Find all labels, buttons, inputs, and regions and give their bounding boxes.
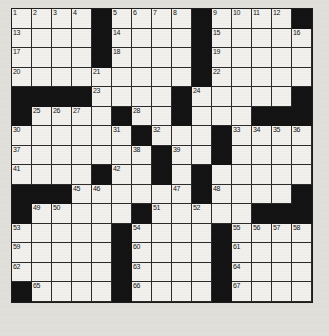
crossword-cell[interactable]: 37 (12, 146, 32, 166)
crossword-cell[interactable]: 61 (232, 243, 252, 263)
crossword-cell[interactable]: 12 (272, 9, 292, 29)
crossword-cell[interactable] (252, 282, 272, 302)
crossword-cell[interactable] (72, 29, 92, 49)
crossword-cell[interactable] (72, 48, 92, 68)
crossword-cell[interactable] (72, 146, 92, 166)
crossword-cell[interactable] (32, 224, 52, 244)
crossword-cell[interactable] (232, 87, 252, 107)
crossword-cell[interactable]: 26 (52, 107, 72, 127)
crossword-cell[interactable] (72, 263, 92, 283)
crossword-cell[interactable]: 22 (212, 68, 232, 88)
crossword-cell[interactable] (272, 282, 292, 302)
crossword-cell[interactable]: 27 (72, 107, 92, 127)
crossword-cell[interactable] (272, 146, 292, 166)
crossword-cell[interactable] (252, 87, 272, 107)
crossword-cell[interactable] (172, 224, 192, 244)
crossword-cell[interactable]: 48 (212, 185, 232, 205)
crossword-cell[interactable] (92, 263, 112, 283)
crossword-cell[interactable]: 58 (292, 224, 312, 244)
crossword-cell[interactable] (92, 107, 112, 127)
crossword-cell[interactable] (132, 48, 152, 68)
crossword-cell[interactable]: 24 (192, 87, 212, 107)
crossword-cell[interactable] (232, 29, 252, 49)
crossword-cell[interactable] (232, 165, 252, 185)
crossword-cell[interactable] (232, 68, 252, 88)
crossword-cell[interactable] (72, 68, 92, 88)
crossword-cell[interactable] (292, 282, 312, 302)
crossword-cell[interactable] (52, 165, 72, 185)
crossword-cell[interactable] (192, 224, 212, 244)
crossword-cell[interactable]: 36 (292, 126, 312, 146)
crossword-cell[interactable] (212, 165, 232, 185)
crossword-cell[interactable]: 28 (132, 107, 152, 127)
crossword-cell[interactable] (212, 204, 232, 224)
crossword-cell[interactable] (112, 204, 132, 224)
crossword-cell[interactable] (172, 68, 192, 88)
crossword-cell[interactable] (52, 146, 72, 166)
crossword-cell[interactable] (172, 282, 192, 302)
crossword-cell[interactable] (112, 68, 132, 88)
crossword-cell[interactable] (152, 224, 172, 244)
crossword-cell[interactable]: 56 (252, 224, 272, 244)
crossword-cell[interactable]: 10 (232, 9, 252, 29)
crossword-cell[interactable]: 13 (12, 29, 32, 49)
crossword-cell[interactable] (152, 107, 172, 127)
crossword-cell[interactable]: 18 (112, 48, 132, 68)
crossword-cell[interactable] (272, 87, 292, 107)
crossword-cell[interactable]: 38 (132, 146, 152, 166)
crossword-cell[interactable] (72, 243, 92, 263)
crossword-cell[interactable] (172, 126, 192, 146)
crossword-cell[interactable] (52, 263, 72, 283)
crossword-cell[interactable]: 64 (232, 263, 252, 283)
crossword-cell[interactable]: 30 (12, 126, 32, 146)
crossword-cell[interactable] (172, 48, 192, 68)
crossword-cell[interactable]: 9 (212, 9, 232, 29)
crossword-cell[interactable] (272, 165, 292, 185)
crossword-grid[interactable]: 1234567891011121314151617181920212223242… (12, 9, 312, 302)
crossword-cell[interactable]: 20 (12, 68, 32, 88)
crossword-cell[interactable] (92, 126, 112, 146)
crossword-cell[interactable] (72, 224, 92, 244)
crossword-cell[interactable]: 31 (112, 126, 132, 146)
crossword-cell[interactable]: 47 (172, 185, 192, 205)
crossword-cell[interactable]: 1 (12, 9, 32, 29)
crossword-cell[interactable]: 67 (232, 282, 252, 302)
crossword-cell[interactable] (192, 282, 212, 302)
crossword-cell[interactable]: 7 (152, 9, 172, 29)
crossword-cell[interactable] (292, 165, 312, 185)
crossword-cell[interactable] (152, 282, 172, 302)
crossword-cell[interactable] (172, 204, 192, 224)
crossword-cell[interactable] (272, 185, 292, 205)
crossword-cell[interactable]: 55 (232, 224, 252, 244)
crossword-cell[interactable] (132, 68, 152, 88)
crossword-cell[interactable] (252, 185, 272, 205)
crossword-cell[interactable] (152, 29, 172, 49)
crossword-cell[interactable]: 25 (32, 107, 52, 127)
crossword-cell[interactable]: 17 (12, 48, 32, 68)
crossword-cell[interactable] (252, 68, 272, 88)
crossword-cell[interactable]: 19 (212, 48, 232, 68)
crossword-cell[interactable] (32, 68, 52, 88)
crossword-cell[interactable]: 5 (112, 9, 132, 29)
crossword-cell[interactable] (52, 282, 72, 302)
crossword-cell[interactable] (152, 87, 172, 107)
crossword-cell[interactable]: 53 (12, 224, 32, 244)
crossword-cell[interactable]: 49 (32, 204, 52, 224)
crossword-cell[interactable]: 57 (272, 224, 292, 244)
crossword-cell[interactable] (152, 48, 172, 68)
crossword-cell[interactable] (132, 29, 152, 49)
crossword-cell[interactable] (112, 146, 132, 166)
crossword-cell[interactable] (32, 126, 52, 146)
crossword-cell[interactable] (52, 48, 72, 68)
crossword-cell[interactable]: 4 (72, 9, 92, 29)
crossword-cell[interactable]: 54 (132, 224, 152, 244)
crossword-cell[interactable]: 2 (32, 9, 52, 29)
crossword-cell[interactable] (172, 165, 192, 185)
crossword-cell[interactable] (112, 87, 132, 107)
crossword-cell[interactable]: 62 (12, 263, 32, 283)
crossword-cell[interactable]: 65 (32, 282, 52, 302)
crossword-cell[interactable]: 14 (112, 29, 132, 49)
crossword-cell[interactable]: 42 (112, 165, 132, 185)
crossword-cell[interactable]: 46 (92, 185, 112, 205)
crossword-cell[interactable] (72, 126, 92, 146)
